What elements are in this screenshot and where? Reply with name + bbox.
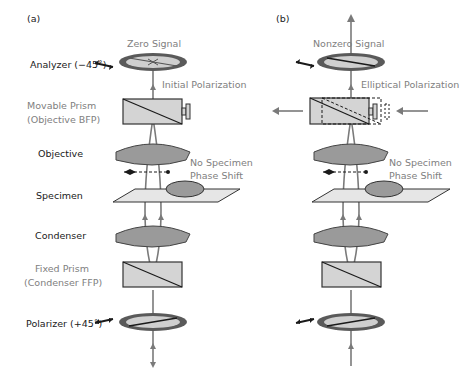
fixed-prism — [123, 262, 182, 287]
label-movable-prism-2: (Objective BFP) — [27, 114, 100, 125]
label-specimen: Specimen — [36, 190, 83, 201]
label-analyzer: Analyzer (−45˚) — [30, 59, 107, 70]
beam-label-b: Elliptical Polarization — [361, 79, 459, 90]
objective-lens — [116, 144, 190, 165]
objective-lens-b — [314, 144, 388, 165]
label-fixed-prism-2: (Condenser FFP) — [24, 277, 102, 288]
specimen — [166, 181, 204, 197]
polarizer-rotation-icon-b — [296, 318, 314, 324]
specimen-note-a-1: No Specimen — [190, 157, 253, 168]
label-fixed-prism-1: Fixed Prism — [35, 263, 89, 274]
signal-label-b: Nonzero Signal — [313, 38, 384, 49]
movable-prism-b — [310, 98, 389, 124]
specimen-note-b-2: Phase Shift — [389, 170, 442, 181]
label-objective: Objective — [38, 148, 83, 159]
label-movable-prism-1: Movable Prism — [27, 100, 96, 111]
label-condenser: Condenser — [35, 230, 86, 241]
polarizer-b — [317, 313, 385, 331]
panel-b: (b) — [272, 13, 459, 366]
analyzer-b — [317, 53, 385, 71]
analyzer — [119, 53, 187, 71]
beam-label-a: Initial Polarization — [162, 79, 247, 90]
dic-microscopy-diagram: (a) Analyzer (−45˚) Movable Prism (Objec… — [0, 0, 476, 383]
condenser-lens-b — [314, 226, 388, 247]
analyzer-rotation-icon-b — [296, 59, 314, 69]
panel-b-tag: (b) — [276, 13, 289, 24]
polarizer — [119, 313, 187, 331]
signal-label-a: Zero Signal — [127, 38, 181, 49]
movable-prism — [123, 99, 190, 124]
specimen-b — [365, 181, 403, 197]
label-polarizer: Polarizer (+45˚) — [26, 318, 102, 329]
fixed-prism-b — [322, 262, 381, 287]
panel-a-tag: (a) — [27, 13, 40, 24]
condenser-lens — [116, 226, 190, 247]
specimen-note-a-2: Phase Shift — [190, 170, 243, 181]
panel-a: (a) Analyzer (−45˚) Movable Prism (Objec… — [24, 13, 253, 368]
specimen-note-b-1: No Specimen — [389, 157, 452, 168]
